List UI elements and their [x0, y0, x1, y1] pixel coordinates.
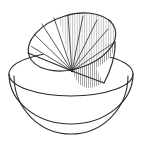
bowl-fill	[9, 74, 133, 124]
apex-vertex-point	[71, 70, 74, 73]
geometry-diagram	[0, 0, 143, 152]
figure-group	[9, 3, 133, 134]
figure-canvas	[0, 0, 143, 152]
hemisphere-bowl	[9, 74, 133, 134]
